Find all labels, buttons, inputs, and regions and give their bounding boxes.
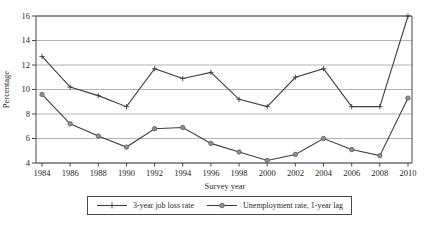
- plus-marker-line-icon: [96, 201, 128, 210]
- svg-text:2006: 2006: [343, 168, 360, 178]
- svg-text:2000: 2000: [259, 168, 276, 178]
- svg-text:2002: 2002: [287, 168, 304, 178]
- circle-marker-line-icon: [206, 201, 238, 210]
- svg-text:1996: 1996: [202, 168, 219, 178]
- svg-text:1994: 1994: [174, 168, 192, 178]
- svg-text:1986: 1986: [62, 168, 79, 178]
- y-axis-ticks: 46810121416: [22, 11, 37, 168]
- plot-area: Survey year Percentage 46810121416198419…: [0, 0, 428, 196]
- svg-text:2010: 2010: [400, 168, 417, 178]
- y-axis-title: Percentage: [1, 71, 11, 109]
- legend-label-job-loss: 3-year job loss rate: [133, 201, 194, 210]
- svg-text:1998: 1998: [231, 168, 248, 178]
- gridlines: [36, 16, 412, 163]
- legend-item-unemployment: Unemployment rate, 1-year lag: [206, 201, 343, 210]
- svg-text:14: 14: [22, 35, 31, 45]
- series-0-job-loss: [39, 13, 410, 109]
- svg-text:1984: 1984: [34, 168, 52, 178]
- svg-text:1992: 1992: [146, 168, 163, 178]
- legend-label-unemployment: Unemployment rate, 1-year lag: [243, 201, 343, 210]
- svg-text:1990: 1990: [118, 168, 135, 178]
- x-axis-title: Survey year: [205, 181, 246, 191]
- line-chart-figure: Survey year Percentage 46810121416198419…: [0, 0, 428, 226]
- series-1-unemployment: [40, 92, 410, 163]
- svg-text:2004: 2004: [315, 168, 333, 178]
- svg-text:6: 6: [26, 133, 30, 143]
- svg-text:12: 12: [22, 60, 31, 70]
- svg-text:8: 8: [26, 109, 30, 119]
- legend-item-job-loss: 3-year job loss rate: [96, 201, 194, 210]
- svg-text:16: 16: [22, 11, 31, 21]
- svg-text:4: 4: [26, 158, 31, 168]
- svg-text:2008: 2008: [371, 168, 388, 178]
- chart-legend: 3-year job loss rate Unemployment rate, …: [87, 196, 352, 215]
- x-axis-ticks: 1984198619881990199219941996199820002002…: [34, 163, 417, 178]
- svg-text:1988: 1988: [90, 168, 107, 178]
- svg-text:10: 10: [22, 84, 31, 94]
